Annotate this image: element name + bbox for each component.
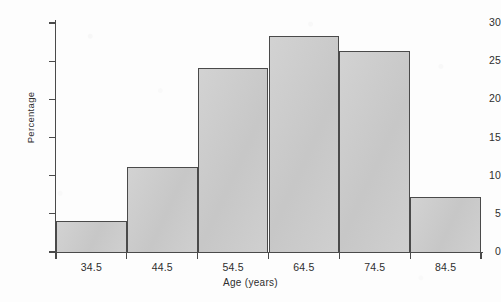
histogram-bar — [339, 51, 410, 252]
bar-face — [57, 222, 126, 252]
histogram-bar — [269, 36, 340, 252]
histogram-bar — [56, 221, 127, 252]
bar-face — [411, 198, 480, 252]
histogram-bar — [127, 167, 198, 252]
x-axis-tick-label: 64.5 — [264, 261, 344, 273]
bar-face — [340, 52, 409, 252]
histogram-figure: 051015202530 34.544.554.564.574.584.5 Pe… — [0, 0, 501, 302]
y-axis-tick-mark — [49, 22, 56, 23]
x-axis-tick-label: 44.5 — [122, 261, 202, 273]
x-axis-tick-label: 34.5 — [51, 261, 131, 273]
y-axis-tick-mark — [49, 213, 56, 214]
x-axis-tick-mark — [480, 252, 481, 259]
x-axis-tick-label: 54.5 — [193, 261, 273, 273]
y-axis-tick-mark — [49, 175, 56, 176]
x-axis-tick-label: 74.5 — [335, 261, 415, 273]
x-axis-tick-mark — [55, 252, 56, 259]
x-axis-title: Age (years) — [0, 277, 501, 288]
x-axis-tick-mark — [268, 252, 269, 259]
y-axis-title: Percentage — [25, 58, 36, 178]
histogram-bar — [198, 68, 269, 252]
y-axis-tick-mark — [49, 61, 56, 62]
bar-face — [270, 37, 339, 252]
x-axis-tick-mark — [197, 252, 198, 259]
x-axis-tick-mark — [410, 252, 411, 259]
plot-area — [56, 23, 481, 252]
y-axis-tick-mark — [49, 137, 56, 138]
bar-face — [199, 69, 268, 252]
histogram-bar — [410, 197, 481, 252]
x-axis-tick-mark — [126, 252, 127, 259]
bar-face — [128, 168, 197, 252]
y-axis-tick-mark — [49, 99, 56, 100]
x-axis-tick-mark — [339, 252, 340, 259]
x-axis-tick-label: 84.5 — [406, 261, 486, 273]
